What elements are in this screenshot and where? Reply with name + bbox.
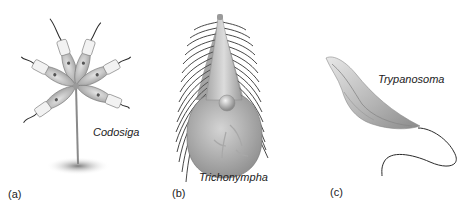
codosiga-illustration: [18, 16, 133, 175]
trichonympha-illustration: [176, 14, 268, 182]
cell-body: [326, 57, 420, 129]
stalk: [76, 86, 78, 164]
species-label-trichonympha: Trichonympha: [199, 171, 268, 183]
panel-label-a: (a): [8, 188, 21, 200]
nucleus: [219, 95, 235, 111]
panel-label-c: (c): [330, 186, 343, 198]
species-label-codosiga: Codosiga: [93, 126, 139, 138]
collar-cell: [20, 81, 79, 127]
collar-cell: [74, 81, 132, 114]
species-label-trypanosoma: Trypanosoma: [378, 73, 444, 85]
panel-label-b: (b): [172, 187, 185, 199]
flagellum: [382, 128, 456, 176]
